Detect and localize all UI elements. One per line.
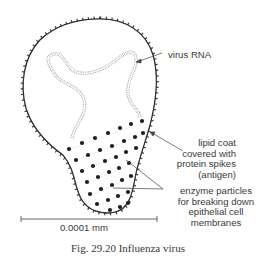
figure-caption: Fig. 29.20 Influenza virus (71, 242, 185, 254)
label-enzyme-line-1: enzyme particles (168, 186, 264, 197)
label-enzyme-particles: enzyme particles for breaking down epith… (168, 186, 264, 228)
lipid-coat-outline (23, 19, 156, 213)
label-lipid-line-4: (antigen) (174, 170, 236, 181)
scale-bar-label: 0.0001 mm (60, 223, 108, 234)
label-enzyme-line-4: membranes (168, 218, 264, 229)
label-lipid-coat: lipid coat covered with protein spikes (… (174, 138, 236, 180)
label-enzyme-line-3: epithelial cell (168, 207, 264, 218)
label-virus-rna: virus RNA (168, 50, 211, 61)
influenza-virus-diagram: virus RNA lipid coat covered with protei… (0, 0, 264, 265)
label-lipid-line-1: lipid coat (174, 138, 236, 149)
label-lipid-line-3: protein spikes (174, 159, 236, 170)
